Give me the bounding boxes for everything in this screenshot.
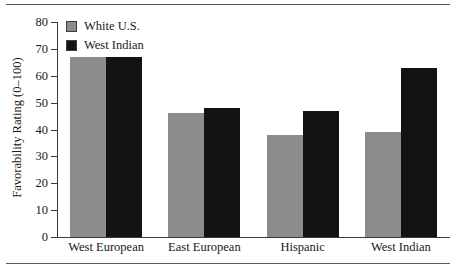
y-tick-mark: [51, 22, 57, 23]
y-tick-mark: [51, 210, 57, 211]
bar: [365, 132, 401, 237]
y-tick-mark: [51, 76, 57, 77]
y-tick-mark: [51, 103, 57, 104]
x-axis-label: West European: [57, 241, 155, 255]
legend-swatch-icon: [66, 40, 77, 51]
bar: [303, 111, 339, 237]
x-axis-label: East European: [155, 241, 253, 255]
y-tick-mark: [51, 130, 57, 131]
bar: [168, 113, 204, 237]
y-axis-line: [57, 22, 58, 238]
bar: [204, 108, 240, 237]
y-tick-mark: [51, 49, 57, 50]
figure-container: 01020304050607080 Favorability Rating (0…: [0, 0, 456, 274]
bar: [401, 68, 437, 237]
legend-swatch-icon: [66, 21, 77, 32]
y-tick-mark: [51, 156, 57, 157]
x-axis-label: Hispanic: [254, 241, 352, 255]
legend-item: West Indian: [66, 37, 144, 54]
bar-chart-plot: 01020304050607080 Favorability Rating (0…: [0, 0, 456, 274]
x-axis-line: [57, 237, 450, 238]
legend-label: White U.S.: [84, 20, 140, 33]
bar: [267, 135, 303, 237]
legend-label: West Indian: [84, 39, 144, 52]
chart-legend: White U.S.West Indian: [66, 18, 144, 56]
legend-item: White U.S.: [66, 18, 144, 35]
y-tick-mark: [51, 183, 57, 184]
bar: [106, 57, 142, 237]
y-axis-title: Favorability Rating (0–100): [10, 18, 25, 238]
y-tick-mark: [51, 237, 57, 238]
x-axis-label: West Indian: [352, 241, 450, 255]
bar: [70, 57, 106, 237]
